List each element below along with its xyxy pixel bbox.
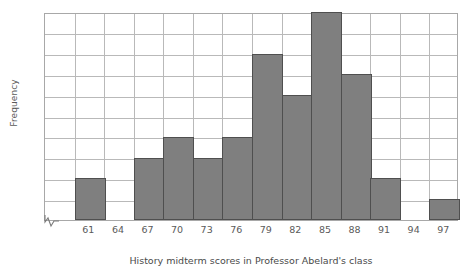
histogram-bar — [222, 137, 253, 220]
histogram-bar — [282, 95, 313, 220]
histogram-bar — [252, 54, 283, 220]
histogram-bar — [370, 178, 401, 220]
histogram-bar — [311, 12, 342, 220]
bar-series — [45, 14, 457, 220]
histogram-bar — [75, 178, 106, 220]
histogram-bar — [193, 158, 224, 220]
histogram-bar — [429, 199, 460, 220]
histogram-bar — [341, 74, 372, 220]
x-axis-tick-labels: 61646770737679828588919497 — [44, 224, 458, 238]
plot-area — [44, 13, 458, 221]
histogram-chart: Frequency 012345678910 61646770737679828… — [0, 0, 470, 277]
histogram-bar — [134, 158, 165, 220]
x-axis-title: History midterm scores in Professor Abel… — [44, 255, 458, 266]
histogram-bar — [163, 137, 194, 220]
x-tick-label: 97 — [423, 224, 463, 235]
